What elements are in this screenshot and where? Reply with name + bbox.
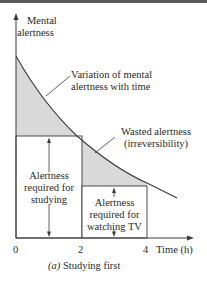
x-tick-2: 2 xyxy=(78,244,83,256)
curve-label-line2: alertness with time xyxy=(71,81,152,93)
curve-leader-line xyxy=(46,76,70,96)
caption: (a) Studying first xyxy=(48,260,120,272)
studying-label-line3: studying xyxy=(17,194,81,206)
caption-text: Studying first xyxy=(63,260,120,271)
caption-prefix: (a) xyxy=(48,260,60,271)
x-axis-label: Time (h) xyxy=(156,244,193,256)
y-axis-label: Mental alertness xyxy=(26,15,57,39)
curve-label-line1: Variation of mental xyxy=(71,69,152,81)
wasted-label-line1: Wasted alertness xyxy=(118,126,194,138)
y-axis-label-line2: alertness xyxy=(17,27,57,39)
wasted-label: Wasted alertness (irreversibility) xyxy=(118,126,194,150)
wasted-leader-line xyxy=(95,137,115,153)
curve-label: Variation of mental alertness with time xyxy=(71,69,152,93)
wasted-label-line2: (irreversibility) xyxy=(118,138,194,150)
x-axis-arrow-icon xyxy=(187,236,194,241)
tv-label-line1: Alertness xyxy=(83,197,146,209)
y-axis-arrow-icon xyxy=(14,13,19,20)
x-tick-0: 0 xyxy=(13,244,18,256)
studying-label: Alertness required for studying xyxy=(17,170,81,206)
studying-label-line2: required for xyxy=(17,182,81,194)
tv-label: Alertness required for watching TV xyxy=(83,197,146,233)
y-axis-label-line1: Mental xyxy=(26,15,57,27)
tv-label-line2: required for xyxy=(83,209,146,221)
x-tick-4: 4 xyxy=(143,244,148,256)
studying-label-line1: Alertness xyxy=(17,170,81,182)
tv-label-line3: watching TV xyxy=(83,221,146,233)
